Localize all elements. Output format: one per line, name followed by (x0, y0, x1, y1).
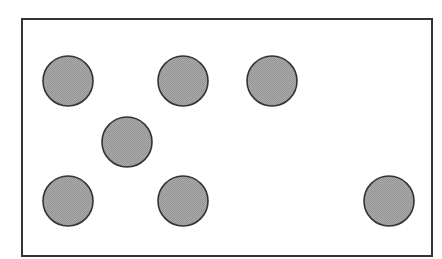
circle-6 (158, 176, 208, 226)
circle-2 (158, 56, 208, 106)
circle-4 (102, 117, 152, 167)
circle-5 (43, 176, 93, 226)
circle-3 (247, 56, 297, 106)
circle-7 (364, 176, 414, 226)
dot-diagram (0, 0, 442, 259)
circle-1 (43, 56, 93, 106)
circle-group (43, 56, 414, 226)
